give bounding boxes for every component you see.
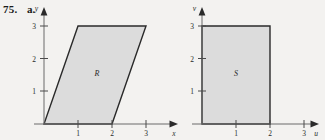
- v-tick-label-2: 2: [190, 55, 194, 64]
- plot-region-s-svg: 1 2 3 1 2 3 v u S: [180, 0, 325, 140]
- x-axis-label: x: [171, 129, 176, 138]
- v-axis-label: v: [193, 4, 197, 13]
- plot-region-r: 1 2 3 1 2 3 y x R: [30, 0, 180, 140]
- u-tick-label-1: 1: [234, 129, 238, 138]
- region-r-label: R: [94, 69, 100, 78]
- y-tick-label-3: 3: [32, 22, 36, 31]
- y-tick-label-1: 1: [32, 87, 36, 96]
- u-tick-label-3: 3: [302, 129, 306, 138]
- y-tick-label-2: 2: [32, 55, 36, 64]
- u-axis-arrow-icon: [311, 121, 320, 128]
- u-axis-label: u: [314, 129, 318, 138]
- x-tick-label-2: 2: [110, 129, 114, 138]
- plot-region-r-svg: 1 2 3 1 2 3 y x R: [30, 0, 180, 140]
- v-tick-label-1: 1: [190, 87, 194, 96]
- exercise-number: 75.: [3, 3, 18, 15]
- x-tick-label-1: 1: [76, 129, 80, 138]
- x-axis-arrow-icon: [170, 121, 179, 128]
- u-tick-label-2: 2: [268, 129, 272, 138]
- v-axis-arrow-icon: [199, 7, 206, 16]
- region-s-label: S: [234, 69, 238, 78]
- v-tick-label-3: 3: [190, 22, 194, 31]
- figure-container: 75. a. 1 2 3 1 2: [0, 0, 325, 140]
- plot-region-s: 1 2 3 1 2 3 v u S: [180, 0, 325, 140]
- y-axis-arrow-icon: [41, 7, 48, 16]
- x-tick-label-3: 3: [144, 129, 148, 138]
- y-axis-label: y: [34, 4, 39, 13]
